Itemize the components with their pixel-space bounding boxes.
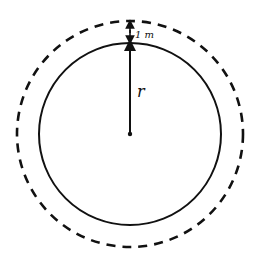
diagram-canvas: 1 m r — [0, 0, 256, 263]
radius-label: r — [137, 82, 146, 101]
gap-label: 1 m — [135, 29, 154, 40]
circles-diagram: 1 m r — [0, 0, 256, 263]
center-dot — [128, 132, 132, 136]
